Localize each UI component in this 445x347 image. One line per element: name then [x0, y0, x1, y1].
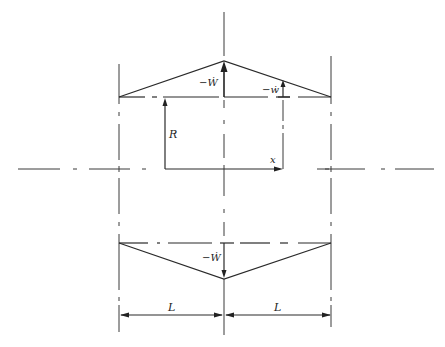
local-velocity-label: −ẇ: [262, 84, 279, 95]
lower-peak-velocity-arrow: [222, 243, 227, 278]
radius-arrow: [163, 98, 168, 169]
upper-peak-velocity-arrow: [221, 61, 228, 97]
upper-peak-velocity-label: −Ẇ: [199, 77, 218, 88]
dimension-label-right: L: [273, 301, 281, 314]
dimension-label-left: L: [167, 301, 175, 314]
x-axis-label: x: [270, 154, 276, 165]
lower-peak-velocity-label: −Ẇ: [202, 252, 221, 263]
diagram-canvas: −Ẇ −ẇ R x −Ẇ: [0, 0, 445, 347]
radius-label: R: [168, 128, 177, 141]
